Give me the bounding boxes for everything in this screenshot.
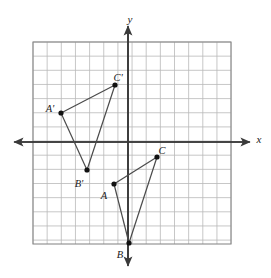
coordinate-plane-svg: A'B'C'ABC x y bbox=[0, 0, 271, 278]
x-axis-label: x bbox=[256, 133, 262, 145]
vertex-label-B-prime: B' bbox=[75, 178, 84, 189]
vertex-label-A: A bbox=[100, 190, 108, 201]
coordinate-plane-figure: A'B'C'ABC x y bbox=[0, 0, 271, 278]
vertex-label-B: B bbox=[117, 249, 124, 260]
vertex-point-B-prime bbox=[84, 167, 89, 172]
vertex-label-C-prime: C' bbox=[113, 72, 123, 83]
vertex-point-A-prime bbox=[58, 110, 63, 115]
vertex-label-A-prime: A' bbox=[45, 103, 55, 114]
y-axis-label: y bbox=[127, 13, 133, 25]
vertex-point-A bbox=[111, 181, 116, 186]
vertex-point-B bbox=[126, 240, 131, 245]
vertex-label-C: C bbox=[158, 145, 166, 156]
